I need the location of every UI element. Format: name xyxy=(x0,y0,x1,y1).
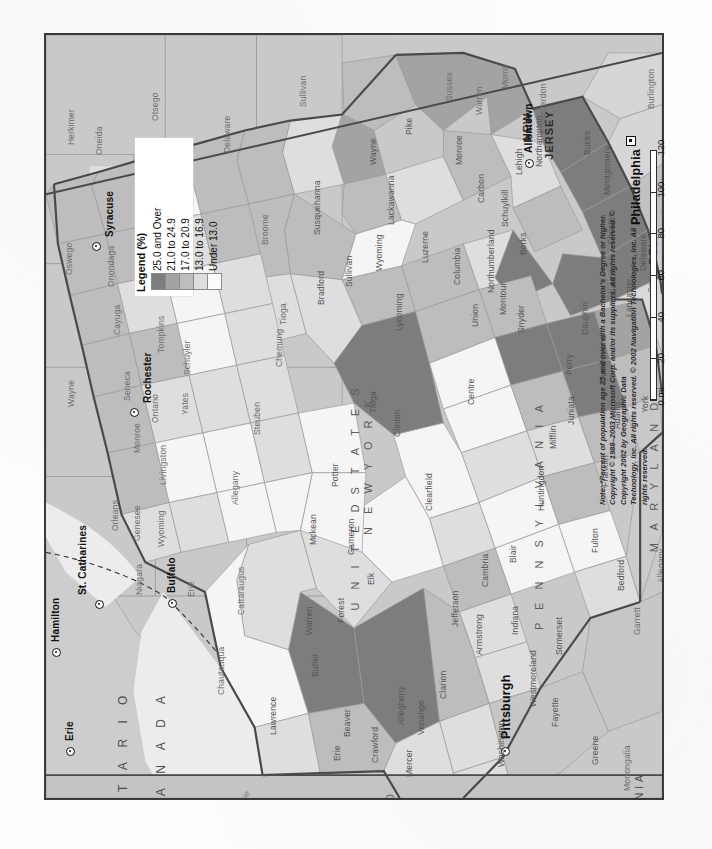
note-line-3: Technology, Inc. All rights reserved. © … xyxy=(629,205,650,505)
city-marker-pittsburgh[interactable] xyxy=(501,747,510,756)
scale-label-1: 20 xyxy=(655,353,666,364)
legend-label-2: 17.0 to 20.9 xyxy=(180,218,191,271)
city-marker-hamilton[interactable] xyxy=(52,648,61,657)
map-frame[interactable]: .c{stroke:#9a9a9a;stroke-width:.7;} .b{f… xyxy=(44,33,664,800)
city-marker-buffalo[interactable] xyxy=(168,599,177,608)
scale-bar: 0 mi 20 40 60 80 100 120 xyxy=(648,150,674,400)
scale-label-4: 80 xyxy=(655,228,666,239)
city-marker-philadelphia[interactable] xyxy=(626,136,636,146)
scale-label-0: 0 mi xyxy=(655,388,666,406)
city-marker-st-catharines[interactable] xyxy=(95,600,104,609)
scale-label-3: 60 xyxy=(655,270,666,281)
legend-label-1: 21.0 to 24.9 xyxy=(166,218,177,271)
scale-label-5: 100 xyxy=(655,182,666,198)
legend-swatch-2 xyxy=(179,273,194,290)
note-line-2: Copyright © 1988–2003 Microsoft Corp. an… xyxy=(608,205,629,505)
city-marker-rochester[interactable] xyxy=(130,408,139,417)
legend-swatch-0 xyxy=(151,273,166,290)
legend-label-0: 25.0 and Over xyxy=(152,208,163,271)
legend[interactable]: Legend (%) 25.0 and Over 21.0 to 24.9 17… xyxy=(135,138,193,296)
legend-label-4: Under 13.0 xyxy=(208,222,219,271)
legend-swatch-3 xyxy=(193,273,208,290)
legend-swatch-4 xyxy=(207,273,222,290)
note-block: Note: *Percent of population age 25 and … xyxy=(598,205,650,505)
note-line-1: Note: *Percent of population age 25 and … xyxy=(598,205,608,505)
scale-label-6: 120 xyxy=(655,140,666,156)
scale-label-2: 40 xyxy=(655,312,666,323)
city-marker-erie[interactable] xyxy=(66,747,75,756)
legend-title: Legend (%) xyxy=(135,233,147,292)
city-marker-allentown[interactable] xyxy=(525,159,534,168)
legend-swatch-1 xyxy=(165,273,180,290)
city-marker-syracuse[interactable] xyxy=(92,242,101,251)
legend-label-3: 13.0 to 16.9 xyxy=(194,218,205,271)
